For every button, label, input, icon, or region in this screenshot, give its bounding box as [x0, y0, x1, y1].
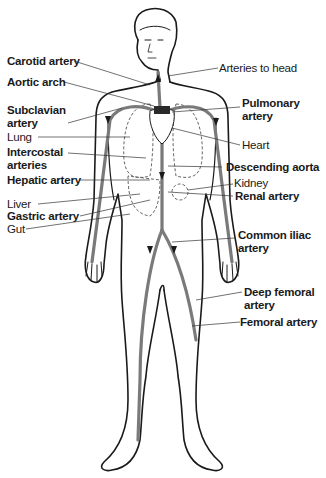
label-lung: Lung — [7, 131, 32, 144]
label-femoral-artery: Femoral artery — [240, 316, 317, 329]
label-line: artery — [238, 242, 311, 255]
head-outline — [135, 9, 177, 83]
label-carotid-artery: Carotid artery — [7, 55, 80, 68]
label-pulmonary-artery: Pulmonary artery — [242, 97, 300, 123]
label-renal-artery: Renal artery — [235, 190, 299, 203]
label-gastric-artery: Gastric artery — [7, 210, 79, 223]
label-line: artery — [242, 110, 300, 123]
label-line: artery — [7, 117, 66, 130]
label-heart: Heart — [242, 139, 269, 152]
subclavian-left-path — [92, 107, 158, 262]
label-line: Pulmonary — [242, 97, 300, 110]
label-line: Subclavian — [7, 104, 66, 117]
label-line: Deep femoral — [244, 286, 314, 299]
label-descending-aorta: Descending aorta — [226, 161, 319, 174]
label-line: Common iliac — [238, 229, 311, 242]
label-common-iliac-artery: Common iliac artery — [238, 229, 311, 255]
label-line: artery — [244, 299, 314, 312]
label-deep-femoral-artery: Deep femoral artery — [244, 286, 314, 312]
label-aortic-arch: Aortic arch — [7, 76, 66, 89]
liver-outline — [128, 176, 160, 216]
label-hepatic-artery: Hepatic artery — [7, 174, 81, 187]
iliac-right-path — [162, 230, 196, 340]
lung-left — [124, 104, 153, 177]
label-line: Intercostal — [7, 146, 63, 159]
label-kidney: Kidney — [234, 177, 268, 190]
kidney-outline — [172, 184, 188, 200]
label-arteries-to-head: Arteries to head — [219, 62, 297, 75]
label-subclavian-artery: Subclavian artery — [7, 104, 66, 130]
label-intercostal-arteries: Intercostal arteries — [7, 146, 63, 172]
label-line: arteries — [7, 159, 63, 172]
label-gut: Gut — [7, 223, 25, 236]
